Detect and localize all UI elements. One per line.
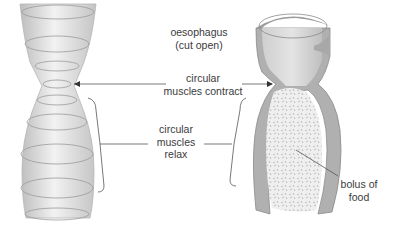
label-bolus-line2: food	[334, 191, 384, 204]
label-contract-line2: muscles contract	[158, 85, 248, 98]
label-oesophagus-line1: oesophagus	[164, 26, 234, 39]
label-relax-line2: muscles	[146, 136, 206, 149]
label-bolus-of-food: bolus of food	[334, 178, 384, 203]
label-muscles-contract: circular muscles contract	[158, 72, 248, 97]
oesophagus-outer-illustration	[20, 4, 96, 220]
label-bolus-line1: bolus of	[334, 178, 384, 191]
label-relax-line3: relax	[146, 148, 206, 161]
arrowhead-right	[267, 81, 273, 87]
label-relax-line1: circular	[146, 123, 206, 136]
label-contract-line1: circular	[158, 72, 248, 85]
label-oesophagus: oesophagus (cut open)	[164, 26, 234, 51]
oesophagus-cut-open-illustration	[253, 14, 341, 214]
relax-bracket-right	[230, 98, 246, 186]
label-oesophagus-line2: (cut open)	[164, 39, 234, 52]
bolus-of-food-shape	[266, 88, 322, 212]
label-muscles-relax: circular muscles relax	[146, 123, 206, 161]
